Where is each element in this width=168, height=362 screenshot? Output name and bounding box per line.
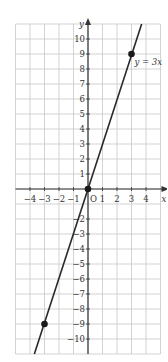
y-tick-label: 2 [80, 154, 85, 164]
y-tick-label: −5 [72, 259, 85, 269]
y-tick-label: 10 [74, 34, 85, 44]
y-tick-label: 9 [80, 49, 85, 59]
y-tick-label: −10 [67, 334, 85, 344]
x-tick-label: −1 [67, 194, 80, 204]
x-tick-label: −3 [38, 194, 51, 204]
y-tick-label: −7 [72, 289, 85, 299]
y-tick-label: 8 [80, 64, 85, 74]
x-tick-label: 2 [114, 194, 119, 204]
y-axis-label: y [78, 19, 84, 29]
x-axis-label: x [162, 194, 167, 204]
origin-label: O [90, 194, 97, 204]
y-axis-arrow-icon [85, 18, 91, 25]
y-tick-label: −4 [72, 244, 85, 254]
y-tick-label: 5 [80, 109, 85, 119]
y-tick-label: 7 [80, 79, 85, 89]
y-tick-label: −6 [72, 274, 85, 284]
coordinate-graph: −4−3−2−1123410987654321−2−3−4−5−6−7−8−9−… [0, 0, 167, 362]
x-tick-label: 1 [100, 194, 105, 204]
x-axis-arrow-icon [162, 186, 168, 192]
axes [16, 18, 168, 354]
x-tick-label: −4 [24, 194, 37, 204]
data-point [85, 186, 92, 193]
y-tick-label: 3 [80, 139, 85, 149]
equation-label: y = 3x [134, 57, 163, 67]
x-tick-label: 3 [129, 194, 134, 204]
y-tick-label: −8 [72, 304, 85, 314]
x-tick-label: 4 [143, 194, 148, 204]
y-tick-label: 6 [80, 94, 85, 104]
data-point [41, 321, 48, 328]
y-tick-label: 1 [80, 169, 85, 179]
y-tick-label: 4 [80, 124, 85, 134]
x-tick-label: −2 [53, 194, 66, 204]
y-tick-label: −9 [72, 319, 85, 329]
